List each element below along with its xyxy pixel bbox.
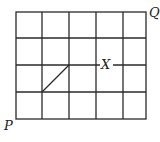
label-p: P — [3, 118, 13, 133]
label-q: Q — [149, 5, 160, 20]
label-x: X — [100, 57, 111, 72]
grid-diagram: Q P X — [0, 0, 160, 142]
diagonal-segment — [42, 65, 69, 92]
grid-lines — [16, 12, 146, 119]
